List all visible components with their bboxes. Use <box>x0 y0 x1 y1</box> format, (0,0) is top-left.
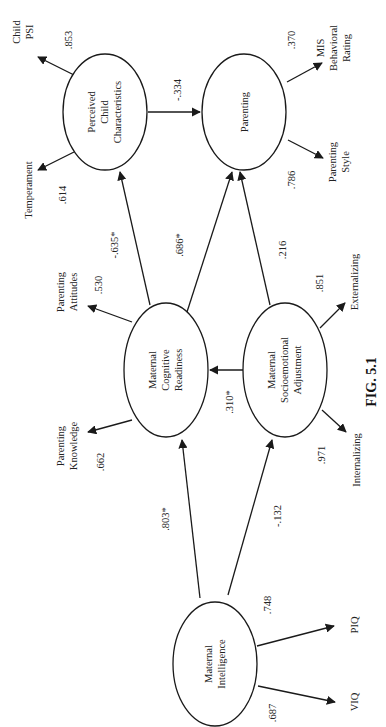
loading-mis: .370 <box>286 31 297 49</box>
indicator-label: Parenting <box>327 141 338 182</box>
coef-cognitive-to-parenting: .686* <box>174 233 185 257</box>
indicator-parenting-style: Parenting Style <box>327 141 351 182</box>
loading-parenting-style: .786 <box>286 171 297 189</box>
indicator-temperament: Temperament <box>23 161 34 219</box>
indicator-label: Rating <box>341 33 352 62</box>
coef-intel-to-socio: -.132 <box>272 505 283 527</box>
coef-cognitive-to-perceived: -.635* <box>109 231 120 258</box>
indicator-internalizing: Internalizing <box>351 432 362 486</box>
loading-temperament: .614 <box>57 185 68 204</box>
indicator-parenting-knowledge: Parenting Knowledge <box>55 421 79 470</box>
indicator-child-psi: Child PSI <box>11 20 35 44</box>
arrow-viq <box>258 686 335 702</box>
loading-parenting-knowledge: .662 <box>95 453 106 471</box>
node-label: Maternal <box>147 351 158 389</box>
indicator-label: PIQ <box>349 616 360 633</box>
node-label: Intelligence <box>216 639 227 689</box>
node-label: Perceived <box>86 91 97 133</box>
indicator-label: Child <box>11 20 22 44</box>
loading-child-psi: .853 <box>63 31 74 49</box>
arrow-parenting-style <box>288 140 323 158</box>
indicator-externalizing: Externalizing <box>349 253 360 310</box>
path-intel-to-socio <box>228 440 272 595</box>
coef-perceived-to-parenting: -.334 <box>172 78 183 101</box>
node-maternal-cognitive-readiness: Maternal Cognitive Readiness <box>124 303 208 437</box>
indicator-label: PSI <box>24 24 35 40</box>
loading-piq: .748 <box>262 596 273 614</box>
node-maternal-intelligence: Maternal Intelligence <box>173 602 257 726</box>
node-parenting: Parenting <box>202 54 286 170</box>
path-intel-to-cognitive <box>182 440 200 598</box>
path-cognitive-to-perceived <box>120 172 150 305</box>
arrow-internalizing <box>322 410 346 432</box>
indicator-label: Style <box>340 151 351 173</box>
coef-socio-to-parenting: .216 <box>277 241 288 259</box>
path-cognitive-to-parenting <box>187 172 232 312</box>
loading-viq: .687 <box>267 704 278 722</box>
arrow-externalizing <box>320 303 345 328</box>
indicator-label: Knowledge <box>68 421 79 470</box>
node-label: Socioemotional <box>279 337 290 403</box>
indicator-label: Behavioral <box>328 25 339 71</box>
node-label: Maternal <box>203 645 214 683</box>
indicator-label: Internalizing <box>351 432 362 486</box>
loading-internalizing: .971 <box>316 446 327 464</box>
node-label: Maternal <box>266 351 277 389</box>
arrow-parenting-knowledge <box>88 420 132 432</box>
figure-caption: FIG. 5.1 <box>364 357 379 406</box>
coef-intel-to-cognitive: .803* <box>160 507 171 531</box>
indicator-label: Externalizing <box>349 253 360 310</box>
indicator-piq: PIQ <box>349 616 360 633</box>
indicator-label: Parenting <box>55 425 66 466</box>
indicator-viq: VIQ <box>349 692 360 711</box>
arrow-piq <box>257 626 334 646</box>
node-label: Parenting <box>239 91 250 132</box>
indicator-label: Parenting <box>55 271 66 312</box>
indicator-label: Temperament <box>23 161 34 219</box>
loading-externalizing: .851 <box>314 274 325 292</box>
node-perceived-child-characteristics: Perceived Child Characteristics <box>63 54 147 170</box>
arrow-parenting-attitudes <box>88 306 132 322</box>
coef-socio-to-cognitive: .310* <box>224 390 235 414</box>
indicator-label: MIS <box>315 39 326 58</box>
node-label: Child <box>99 100 110 124</box>
path-socio-to-parenting <box>240 172 270 305</box>
sem-diagram: Perceived Child Characteristics Parentin… <box>0 0 386 727</box>
indicator-label: Attitudes <box>68 273 79 312</box>
arrow-temperament <box>38 152 74 170</box>
indicator-label: VIQ <box>349 692 360 711</box>
node-label: Characteristics <box>112 81 123 143</box>
node-label: Cognitive <box>160 349 171 391</box>
arrow-child-psi <box>38 57 74 75</box>
node-maternal-socioemotional-adjustment: Maternal Socioemotional Adjustment <box>243 303 327 437</box>
node-label: Adjustment <box>292 345 303 394</box>
node-label: Readiness <box>173 349 184 392</box>
loading-parenting-attitudes: .530 <box>93 276 104 294</box>
arrow-mis <box>287 63 322 82</box>
indicator-parenting-attitudes: Parenting Attitudes <box>55 271 79 312</box>
